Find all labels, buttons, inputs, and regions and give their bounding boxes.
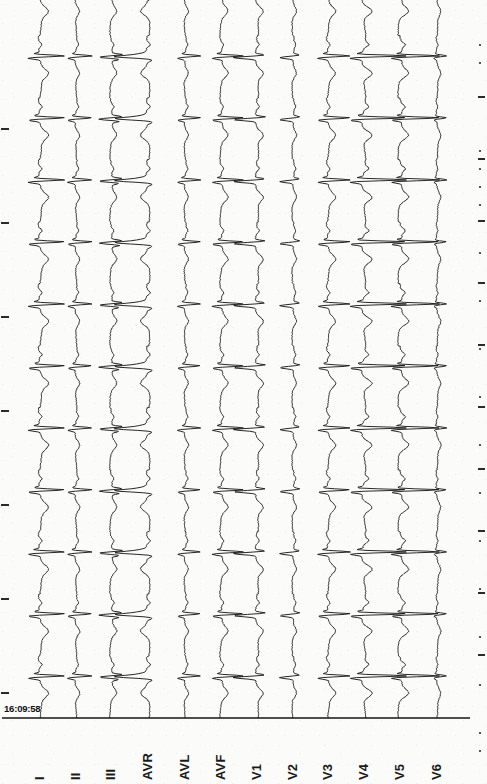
lead-label-iii: III (103, 769, 118, 780)
ecg-strip-page: 16:09:58 IIIIIIAVRAVLAVFV1V2V3V4V5V6 (0, 0, 487, 784)
timestamp-label: 16:09:58 (4, 703, 40, 714)
lead-label-strip: IIIIIIAVRAVLAVFV1V2V3V4V5V6 (0, 726, 487, 784)
lead-trace-v3 (318, 0, 351, 718)
right-micro-tick (479, 168, 482, 170)
right-micro-tick (479, 150, 482, 152)
left-calibration-tick (1, 504, 9, 506)
lead-trace-avf (212, 0, 244, 718)
lead-label-v1: V1 (249, 764, 264, 780)
right-micro-tick (479, 44, 482, 46)
left-calibration-tick (1, 598, 9, 600)
lead-label-v5: V5 (392, 764, 407, 780)
right-micro-tick (479, 62, 482, 64)
lead-trace-v5 (391, 0, 440, 718)
lead-trace-v6 (434, 0, 447, 718)
left-calibration-tick (1, 222, 9, 224)
lead-trace-v4 (350, 0, 407, 718)
right-micro-tick (479, 444, 482, 446)
lead-label-avf: AVF (213, 754, 228, 780)
left-calibration-tick (1, 410, 9, 412)
right-calibration-tick (478, 344, 485, 346)
left-calibration-tick (1, 692, 9, 694)
right-micro-tick (479, 186, 482, 188)
lead-trace-ii (67, 0, 92, 718)
right-calibration-tick (478, 592, 485, 594)
lead-label-v3: V3 (320, 764, 335, 780)
ecg-trace-layer (0, 0, 487, 784)
right-micro-tick (479, 492, 482, 494)
lead-label-i: I (32, 776, 47, 780)
lead-trace-i (28, 0, 65, 718)
lead-label-v2: V2 (285, 764, 300, 780)
left-calibration-tick (1, 316, 9, 318)
right-micro-tick (479, 540, 482, 542)
right-calibration-tick (478, 468, 485, 470)
left-calibration-tick (1, 128, 9, 130)
right-calibration-tick (478, 158, 485, 160)
right-micro-tick (479, 204, 482, 206)
lead-trace-avr (114, 0, 152, 718)
lead-label-avr: AVR (140, 753, 155, 780)
right-calibration-tick (478, 220, 485, 222)
right-micro-tick (479, 684, 482, 686)
right-calibration-tick (478, 282, 485, 284)
lead-label-v6: V6 (429, 764, 444, 780)
lead-trace-v1 (233, 0, 265, 718)
right-micro-tick (479, 636, 482, 638)
ecg-waveform-group (28, 0, 447, 718)
lead-label-ii: II (68, 772, 83, 780)
right-micro-tick (479, 252, 482, 254)
right-micro-tick (479, 588, 482, 590)
right-micro-tick (479, 348, 482, 350)
right-calibration-tick (478, 530, 485, 532)
right-micro-tick (479, 396, 482, 398)
lead-label-v4: V4 (356, 764, 371, 780)
right-calibration-tick (478, 654, 485, 656)
right-calibration-tick (478, 406, 485, 408)
right-micro-tick (479, 300, 482, 302)
lead-trace-avl (177, 0, 200, 718)
lead-trace-iii (99, 0, 123, 718)
lead-label-avl: AVL (177, 754, 192, 780)
right-calibration-tick (478, 96, 485, 98)
lead-trace-v2 (279, 0, 299, 718)
